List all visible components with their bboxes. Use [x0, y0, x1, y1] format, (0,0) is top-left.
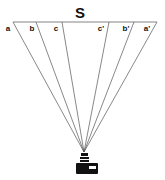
- ray-a-prime: [84, 22, 157, 152]
- label-c: c: [54, 24, 59, 33]
- ray-b: [36, 22, 84, 152]
- label-b: b: [30, 24, 35, 33]
- label-b-prime: b': [123, 24, 130, 33]
- ray-c-prime: [84, 22, 109, 152]
- camera-icon: [76, 153, 98, 174]
- ray-b-prime: [84, 22, 134, 152]
- title-s: S: [75, 4, 85, 21]
- ray-diagram: S a b c c' b' a': [0, 0, 165, 180]
- rays: [13, 22, 157, 152]
- label-a-prime: a': [144, 24, 150, 33]
- label-c-prime: c': [98, 24, 104, 33]
- label-a: a: [6, 24, 11, 33]
